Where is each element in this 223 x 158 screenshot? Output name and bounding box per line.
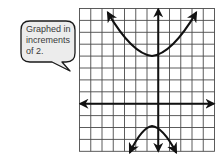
callout-text: Graphed in increments of 2. [26, 24, 74, 57]
callout-line-1: Graphed in [26, 24, 74, 35]
callout-line-2: increments [26, 35, 74, 46]
grid-lines [80, 9, 215, 152]
callout-line-3: of 2. [26, 46, 74, 57]
hyperbola-graph-figure: Graphed in increments of 2. [0, 0, 223, 158]
